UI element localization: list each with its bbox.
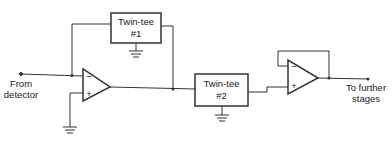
input-label-line2: detector — [0, 89, 42, 100]
twin-tee-1-label: Twin-tee #1 — [111, 16, 161, 40]
output-terminal — [367, 78, 370, 81]
opamp-2-inverting-sign: − — [290, 61, 298, 72]
circuit-diagram — [0, 0, 392, 147]
opamp-2-noninverting-sign: + — [290, 80, 298, 91]
output-label-line2: stages — [340, 93, 392, 104]
twin-tee-2-label: Twin-tee #2 — [195, 78, 248, 102]
twin-tee-2-number: #2 — [195, 90, 248, 102]
twin-tee-2-name: Twin-tee — [195, 78, 248, 90]
output-label: To further stages — [340, 82, 392, 104]
opamp-1-noninverting-sign: + — [85, 88, 93, 99]
twin-tee-1-name: Twin-tee — [111, 16, 161, 28]
input-label-line1: From — [0, 78, 42, 89]
output-label-line1: To further — [340, 82, 392, 93]
opamp-1-inverting-sign: − — [85, 71, 93, 82]
input-label: From detector — [0, 78, 42, 100]
twin-tee-1-number: #1 — [111, 28, 161, 40]
